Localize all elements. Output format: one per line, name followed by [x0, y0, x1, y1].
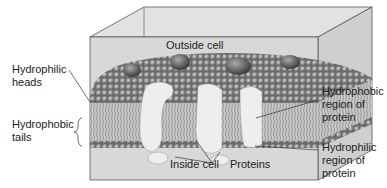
label-hydrophobic-tails: Hydrophobic tails	[12, 118, 74, 144]
label-inside-cell: Inside cell	[170, 158, 219, 171]
label-hydrophilic-heads: Hydrophilic heads	[12, 63, 66, 89]
label-proteins: Proteins	[230, 158, 270, 171]
label-hydrophilic-region: Hydrophilic region of protein	[322, 141, 376, 180]
label-hydrophobic-region: Hydrophobic region of protein	[322, 85, 384, 124]
label-outside-cell: Outside cell	[166, 39, 223, 52]
